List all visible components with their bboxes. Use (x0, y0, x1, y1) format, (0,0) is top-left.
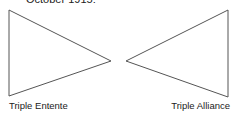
triple-alliance-triangle (126, 10, 228, 97)
triple-entente-label: Triple Entente (9, 100, 68, 111)
triple-entente-triangle (9, 10, 111, 96)
triple-alliance-label: Triple Alliance (171, 100, 230, 111)
